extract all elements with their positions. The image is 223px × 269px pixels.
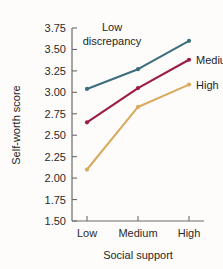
y-tick-label: 2.75 xyxy=(45,108,66,120)
series-label-high: High xyxy=(196,79,219,91)
y-tick-label: 3.75 xyxy=(45,22,66,34)
x-tick-label: High xyxy=(178,227,201,239)
y-tick-label: 1.75 xyxy=(45,194,66,206)
y-tick-label: 2.25 xyxy=(45,151,66,163)
y-tick-label: 2.00 xyxy=(45,172,66,184)
data-point-marker xyxy=(187,58,191,62)
data-point-marker xyxy=(187,39,191,43)
data-point-marker xyxy=(85,120,89,124)
data-point-marker xyxy=(85,167,89,171)
y-tick-label: 3.00 xyxy=(45,86,66,98)
series-line xyxy=(87,41,189,89)
series-layer xyxy=(85,39,191,172)
series-label-medium: Medium xyxy=(196,54,223,66)
series-line xyxy=(87,85,189,170)
x-tick-label: Low xyxy=(77,227,97,239)
y-tick-label: 1.50 xyxy=(45,215,66,227)
chart-figure: 1.501.752.002.252.502.753.003.253.503.75… xyxy=(0,0,223,269)
y-tick-label: 2.50 xyxy=(45,129,66,141)
line-chart: 1.501.752.002.252.502.753.003.253.503.75… xyxy=(0,0,223,269)
x-axis-ticks: LowMediumHigh xyxy=(77,216,200,239)
data-point-marker xyxy=(136,86,140,90)
annotation-low-discrepancy-line2: discrepancy xyxy=(83,35,142,47)
data-point-marker xyxy=(85,87,89,91)
y-tick-label: 3.25 xyxy=(45,65,66,77)
data-point-marker xyxy=(187,83,191,87)
annotation-low-discrepancy-line1: Low xyxy=(102,21,122,33)
y-tick-label: 3.50 xyxy=(45,43,66,55)
x-axis-title: Social support xyxy=(103,249,173,261)
data-point-marker xyxy=(136,105,140,109)
data-point-marker xyxy=(136,67,140,71)
y-axis-title: Self-worth score xyxy=(10,85,22,164)
series-labels: MediumHigh xyxy=(196,54,223,91)
x-tick-label: Medium xyxy=(118,227,157,239)
